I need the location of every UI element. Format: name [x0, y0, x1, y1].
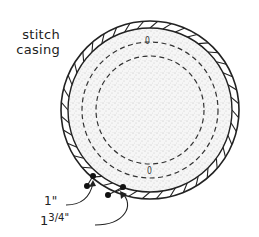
dot-1in-stitch: [90, 173, 96, 179]
one-inch-label: 1": [44, 194, 57, 208]
top-marker: 0: [145, 34, 150, 47]
one-three-quarter-inch-label: 13/4": [40, 212, 69, 228]
stitch-casing-label: stitch casing: [12, 27, 60, 57]
casing-label-line1: stitch: [12, 27, 60, 42]
leader-arrow-134in: [95, 193, 128, 225]
label-fraction: 3/4": [48, 212, 69, 223]
casing-label-line2: casing: [12, 42, 60, 57]
dot-1in-edge: [84, 183, 90, 189]
diagram-canvas: stitch casing 1" 13/4" 0 0: [0, 0, 259, 237]
bottom-marker: 0: [147, 164, 152, 177]
dot-134in-edge: [105, 192, 111, 198]
dot-134in-stitch: [120, 184, 126, 190]
